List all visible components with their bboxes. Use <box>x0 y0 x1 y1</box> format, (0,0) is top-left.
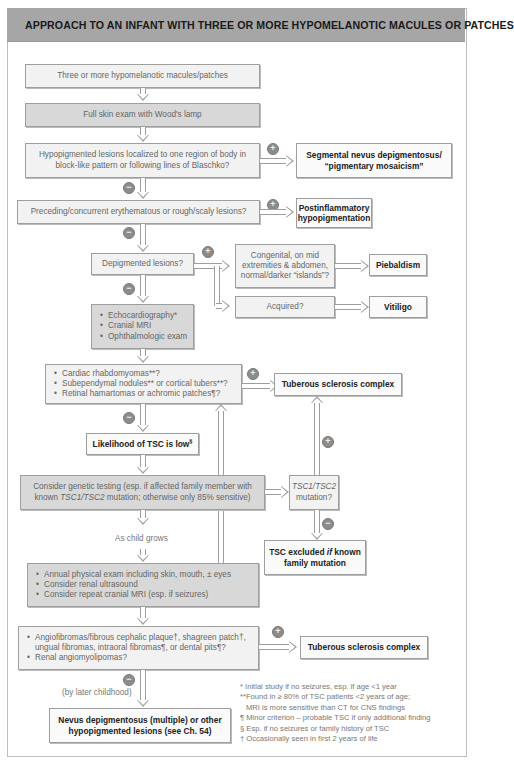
tsc-low-footnote-mark: § <box>189 438 192 444</box>
arrowhead-icon <box>137 135 149 142</box>
node-segmental-result: Segmental nevus depigmentosus/ “pigmenta… <box>296 143 452 178</box>
node-postinflammatory-question: Preceding/concurrent erythematous or rou… <box>17 200 260 224</box>
as-child-grows-label: As child grows <box>115 534 168 543</box>
node-later-findings-question: Angiofibromas/fibrous cephalic plaque†, … <box>18 626 259 670</box>
genetic-testing-gene: TSC1/TSC2 <box>60 493 104 502</box>
footnote-item: ¶ Minor criterion – probable TSC if only… <box>240 713 431 723</box>
header-bar: APPROACH TO AN INFANT WITH THREE OR MORE… <box>7 8 465 42</box>
followup-item: Consider renal ultrasound <box>36 580 258 590</box>
arrowhead-icon <box>289 641 297 653</box>
footnote-item: MRI is more sensitive than CT for CNS fi… <box>240 703 431 713</box>
arrow-mutation-negative <box>314 510 320 533</box>
node-tsc-findings-question: Cardiac rhabdomyomas**? Subependymal nod… <box>45 364 242 404</box>
arrow-segmental-negative <box>140 178 146 192</box>
arrow-later-negative <box>140 670 146 700</box>
positive-sign-icon: + <box>322 436 334 448</box>
arrowhead-icon <box>222 300 230 312</box>
footnote-item: * Initial study if no seizures, esp. if … <box>240 682 431 692</box>
arrow-congenital-to-piebaldism <box>335 263 361 269</box>
node-tsc-excluded-text: TSC excluded if known family mutation <box>269 547 361 568</box>
arrow-genetic-to-mutation <box>265 489 281 495</box>
negative-sign-icon: − <box>123 674 135 686</box>
node-postinflammatory-question-text: Preceding/concurrent erythematous or rou… <box>18 207 259 217</box>
positive-sign-icon: + <box>202 246 214 258</box>
followup-list: Annual physical exam including skin, mou… <box>36 570 258 601</box>
node-vitiligo-text: Vitiligo <box>370 302 426 312</box>
arrow-low-to-genetic <box>140 455 146 467</box>
arrowhead-icon <box>361 260 369 272</box>
negative-sign-icon: − <box>123 227 135 239</box>
node-genetic-testing-text: Consider genetic testing (esp. if affect… <box>27 482 258 503</box>
later-finding-item: Renal angiomyolipomas? <box>27 653 254 663</box>
node-genetic-testing: Consider genetic testing (esp. if affect… <box>20 475 265 510</box>
arrow-workup-to-findings <box>140 349 146 356</box>
arrow-acquired-to-vitiligo <box>335 304 361 310</box>
node-segmental-question: Hypopigmented lesions localized to one r… <box>25 143 260 178</box>
initial-workup-list: Echocardiography* Cranial MRI Ophthalmol… <box>100 311 193 342</box>
arrowhead-icon <box>361 301 369 313</box>
later-finding-item: Angiofibromas/fibrous cephalic plaque†, … <box>27 633 254 654</box>
arrowhead-icon <box>137 296 149 303</box>
workup-item: Cranial MRI <box>100 321 193 331</box>
negative-sign-icon: − <box>322 518 334 530</box>
arrowhead-icon <box>137 618 149 625</box>
arrowhead-icon <box>137 192 149 199</box>
arrowhead-icon <box>137 245 149 252</box>
arrowhead-icon <box>137 555 149 562</box>
arrowhead-icon <box>137 356 149 363</box>
node-final-result: Nevus depigmentosus (multiple) or other … <box>49 708 231 743</box>
node-woods-lamp-text: Full skin exam with Wood's lamp <box>26 110 259 120</box>
arrowhead-icon <box>286 155 294 167</box>
later-findings-list: Angiofibromas/fibrous cephalic plaque†, … <box>27 633 254 664</box>
node-vitiligo: Vitiligo <box>369 296 427 318</box>
arrowhead-icon <box>137 467 149 474</box>
arrowhead-icon <box>215 404 227 411</box>
node-congenital-question-text: Congenital, on mid extremities & abdomen… <box>240 251 330 282</box>
node-tsc-low: Likelihood of TSC is low§ <box>86 433 199 455</box>
mutation-question-text: mutation? <box>290 493 338 503</box>
workup-item: Echocardiography* <box>100 311 193 321</box>
arrowhead-icon <box>137 700 149 707</box>
arrow-followup-to-later <box>140 607 146 618</box>
finding-item: Subependymal nodules** or cortical tuber… <box>54 379 241 389</box>
diagram-title: APPROACH TO AN INFANT WITH THREE OR MORE… <box>25 19 514 31</box>
node-piebaldism: Piebaldism <box>369 254 427 276</box>
footnote-item: § Esp. if no seizures or family history … <box>240 724 431 734</box>
by-later-childhood-label: (by later childhood) <box>62 688 132 697</box>
node-followup: Annual physical exam including skin, mou… <box>27 563 259 607</box>
arrow-depigmented-branch <box>214 266 220 306</box>
arrow-segmental-positive <box>260 158 286 164</box>
arrowhead-icon <box>281 486 289 498</box>
node-acquired-question: Acquired? <box>235 296 335 318</box>
mutation-question-gene: TSC1/TSC2 <box>290 482 338 492</box>
arrow-mutation-positive-up <box>314 403 320 475</box>
positive-sign-icon: + <box>267 143 279 155</box>
node-depigmented-question: Depigmented lesions? <box>91 253 194 275</box>
finding-item: Retinal hamartomas or achromic patches¶? <box>54 389 241 399</box>
node-tsc-result-1-text: Tuberous sclerosis complex <box>275 379 401 389</box>
arrow-postinflammatory-negative <box>140 224 146 245</box>
node-postinflammatory-result-text: Postinflammatory hypopigmentation <box>297 203 371 224</box>
node-segmental-result-text: Segmental nevus depigmentosus/ “pigmenta… <box>303 150 445 171</box>
genetic-testing-text-b: mutation; otherwise only 85% sensitive) <box>105 493 251 502</box>
followup-item: Consider repeat cranial MRI (esp. if sei… <box>36 590 258 600</box>
node-tsc-low-text: Likelihood of TSC is low§ <box>87 439 198 449</box>
arrow-woods-to-segmental <box>140 127 146 135</box>
arrowhead-icon <box>311 533 323 540</box>
positive-sign-icon: + <box>247 368 259 380</box>
node-mutation-question: TSC1/TSC2 mutation? <box>289 475 339 510</box>
negative-sign-icon: − <box>123 412 135 424</box>
node-woods-lamp: Full skin exam with Wood's lamp <box>25 103 260 127</box>
arrowhead-icon <box>137 94 149 101</box>
arrow-postinflammatory-positive <box>260 209 286 215</box>
arrowhead-icon <box>137 518 149 525</box>
footnote-item: † Occasionally seen in first 2 years of … <box>240 734 431 744</box>
arrow-findings-negative <box>140 404 146 425</box>
arrow-genetic-to-grows <box>140 510 146 518</box>
node-tsc-excluded: TSC excluded if known family mutation <box>264 540 366 575</box>
arrowhead-icon <box>311 396 323 403</box>
footnote-item: **Found in ≥ 80% of TSC patients <2 year… <box>240 692 431 702</box>
negative-sign-icon: − <box>123 182 135 194</box>
node-tsc-result-1: Tuberous sclerosis complex <box>274 373 402 396</box>
arrow-later-positive <box>259 644 289 650</box>
